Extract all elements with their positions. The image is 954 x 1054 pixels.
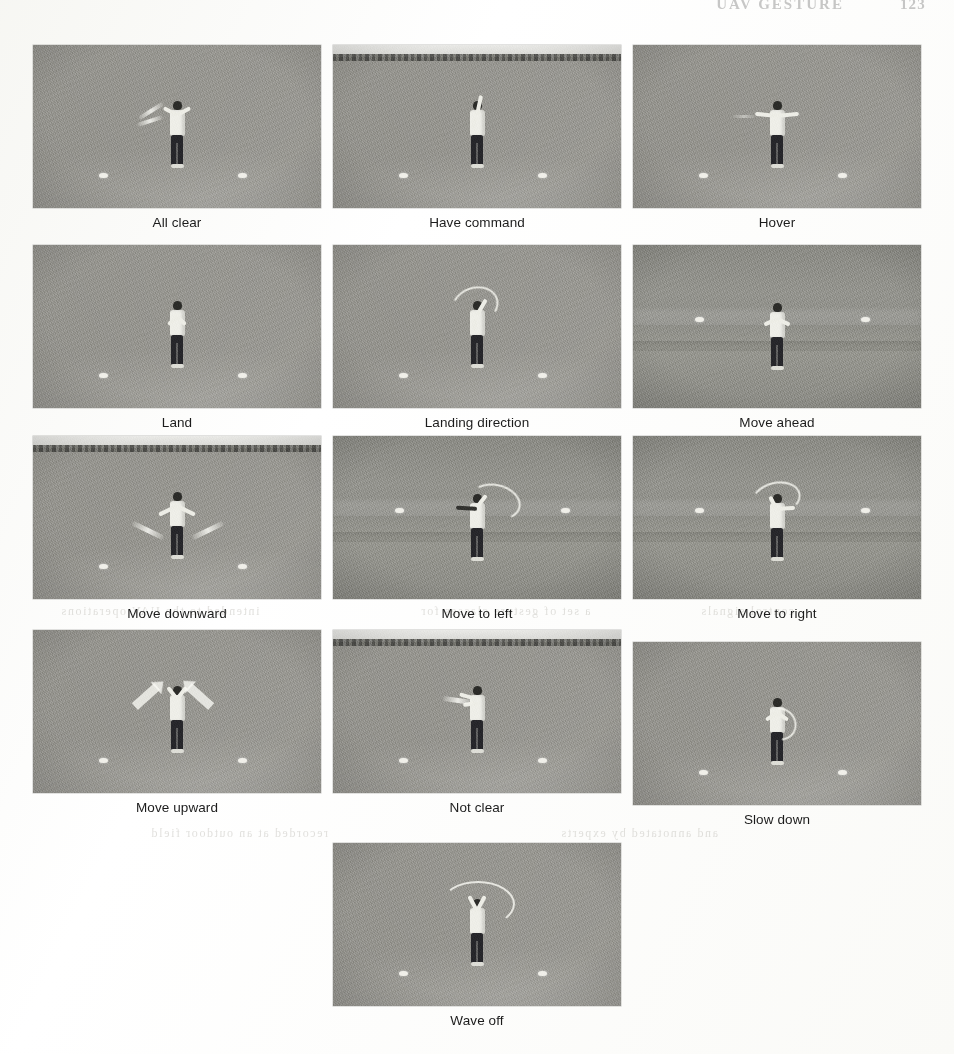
photo-vignette [333, 630, 621, 793]
photo-vignette [333, 45, 621, 208]
gesture-caption: Move ahead [739, 415, 814, 430]
gesture-photo [633, 642, 921, 805]
gesture-caption: Have command [429, 215, 525, 230]
photo-vignette [33, 436, 321, 599]
gesture-photo [33, 436, 321, 599]
gesture-photo [333, 436, 621, 599]
gesture-caption: Slow down [744, 812, 810, 827]
gesture-caption: Not clear [450, 800, 505, 815]
figure-panel: Land [33, 245, 321, 430]
gesture-photo [33, 630, 321, 793]
gesture-photo [633, 245, 921, 408]
photo-vignette [333, 436, 621, 599]
photo-vignette [33, 245, 321, 408]
figure-panel: All clear [33, 45, 321, 230]
figure-row-3: Move downwardMove to leftMove to right [0, 436, 954, 621]
figure-panel: Move ahead [633, 245, 921, 430]
figure-panel: Move to left [333, 436, 621, 621]
photo-vignette [33, 630, 321, 793]
figure-panel: Wave off [333, 843, 621, 1028]
gesture-photo [33, 45, 321, 208]
gesture-figure-grid: All clearHave commandHoverLandLanding di… [0, 0, 954, 1054]
figure-panel: Hover [633, 45, 921, 230]
figure-row-4: Move upwardNot clearSlow down [0, 630, 954, 827]
figure-panel: Landing direction [333, 245, 621, 430]
gesture-caption: Move downward [127, 606, 227, 621]
figure-panel: Move downward [33, 436, 321, 621]
gesture-photo [333, 245, 621, 408]
gesture-photo [633, 436, 921, 599]
gesture-caption: Wave off [450, 1013, 503, 1028]
gesture-caption: All clear [153, 215, 202, 230]
photo-vignette [333, 245, 621, 408]
gesture-caption: Land [162, 415, 192, 430]
figure-panel: Not clear [333, 630, 621, 827]
gesture-caption: Move upward [136, 800, 218, 815]
figure-row-1: All clearHave commandHover [0, 45, 954, 230]
figure-row-5: Wave off [0, 843, 954, 1028]
figure-row-2: LandLanding directionMove ahead [0, 245, 954, 430]
gesture-caption: Hover [759, 215, 796, 230]
figure-panel: Move to right [633, 436, 921, 621]
photo-vignette [633, 436, 921, 599]
gesture-photo [333, 630, 621, 793]
photo-vignette [333, 843, 621, 1006]
figure-panel: Have command [333, 45, 621, 230]
figure-panel: Move upward [33, 630, 321, 827]
photo-vignette [633, 245, 921, 408]
photo-vignette [33, 45, 321, 208]
gesture-photo [633, 45, 921, 208]
gesture-photo [333, 843, 621, 1006]
gesture-caption: Move to left [442, 606, 513, 621]
gesture-caption: Move to right [737, 606, 816, 621]
gesture-photo [33, 245, 321, 408]
photo-vignette [633, 45, 921, 208]
photo-vignette [633, 642, 921, 805]
gesture-caption: Landing direction [425, 415, 530, 430]
gesture-photo [333, 45, 621, 208]
figure-panel: Slow down [633, 642, 921, 827]
